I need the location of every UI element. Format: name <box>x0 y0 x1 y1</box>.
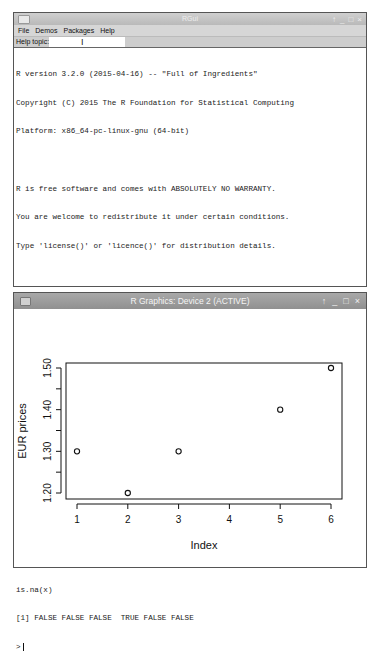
y-ticks: 1.201.301.401.50 <box>42 358 61 503</box>
menu-help[interactable]: Help <box>100 25 114 36</box>
graphics-window-title: R Graphics: Device 2 (ACTIVE) <box>14 293 366 309</box>
y-tick-label: 1.30 <box>42 441 53 461</box>
y-tick-label: 1.40 <box>42 399 53 419</box>
r-graphics-window: R Graphics: Device 2 (ACTIVE) ↑ _ □ × 1.… <box>13 292 367 568</box>
graphics-window-controls: ↑ _ □ × <box>322 293 360 309</box>
console-line: Type 'license()' or 'licence()' for dist… <box>16 242 364 252</box>
x-axis-label: Index <box>191 539 218 551</box>
minimize-icon[interactable]: _ <box>332 296 337 306</box>
console-window-controls: ↑ _ □ × <box>332 13 362 25</box>
pin-icon[interactable]: ↑ <box>322 296 327 306</box>
r-console-window: RGui ↑ _ □ × File Demos Packages Help He… <box>13 12 367 287</box>
console-line: You are welcome to redistribute it under… <box>16 213 364 223</box>
data-point <box>74 449 79 454</box>
x-tick-label: 6 <box>328 514 334 525</box>
plot-frame <box>66 363 342 499</box>
close-icon[interactable]: × <box>357 15 362 24</box>
x-tick-label: 3 <box>176 514 182 525</box>
x-tick-label: 1 <box>74 514 80 525</box>
data-point <box>328 365 333 370</box>
pin-icon[interactable]: ↑ <box>332 15 336 24</box>
console-prompt-line[interactable]: > <box>16 643 364 653</box>
help-topic-label: Help topic: <box>16 37 49 47</box>
console-prompt: > <box>16 643 21 651</box>
menu-file[interactable]: File <box>18 25 29 36</box>
console-line: R version 3.2.0 (2015-04-16) -- "Full of… <box>16 70 364 80</box>
help-topic-row: Help topic: I <box>14 37 366 48</box>
graphics-titlebar[interactable]: R Graphics: Device 2 (ACTIVE) ↑ _ □ × <box>14 293 366 309</box>
menu-bar: File Demos Packages Help <box>14 25 366 37</box>
console-line <box>16 271 364 281</box>
data-point <box>176 449 181 454</box>
help-topic-input[interactable] <box>49 37 125 47</box>
console-result: [1] FALSE FALSE FALSE TRUE FALSE FALSE <box>16 614 364 624</box>
x-tick-label: 4 <box>227 514 233 525</box>
x-tick-label: 2 <box>125 514 131 525</box>
data-points <box>74 365 333 495</box>
menu-packages[interactable]: Packages <box>63 25 94 36</box>
maximize-icon[interactable]: □ <box>343 296 348 306</box>
close-icon[interactable]: × <box>355 296 360 306</box>
text-cursor-icon: I <box>81 37 84 47</box>
console-line: R is free software and comes with ABSOLU… <box>16 185 364 195</box>
y-tick-label: 1.20 <box>42 483 53 503</box>
menu-demos[interactable]: Demos <box>35 25 57 36</box>
minimize-icon[interactable]: _ <box>340 15 344 24</box>
data-point <box>278 407 283 412</box>
x-tick-label: 5 <box>277 514 283 525</box>
scatter-plot: 1.201.301.401.50 123456 Index EUR prices <box>14 309 366 567</box>
console-line <box>16 156 364 166</box>
console-titlebar[interactable]: RGui ↑ _ □ × <box>14 13 366 25</box>
input-caret <box>23 643 24 651</box>
y-axis-label: EUR prices <box>16 403 28 459</box>
console-command: is.na(x) <box>16 586 364 596</box>
y-tick-label: 1.50 <box>42 358 53 378</box>
maximize-icon[interactable]: □ <box>348 15 353 24</box>
data-point <box>125 490 130 495</box>
x-ticks: 123456 <box>74 504 334 525</box>
console-line: Copyright (C) 2015 The R Foundation for … <box>16 99 364 109</box>
console-window-title: RGui <box>14 13 366 25</box>
console-line: Platform: x86_64-pc-linux-gnu (64-bit) <box>16 127 364 137</box>
